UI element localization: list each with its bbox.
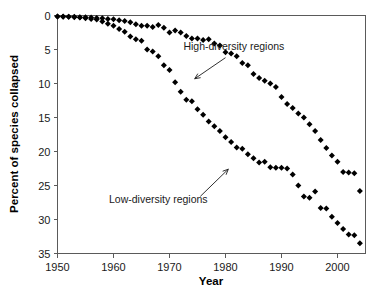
data-point [55, 14, 61, 20]
data-point [234, 144, 240, 150]
data-point [335, 220, 341, 226]
data-point [284, 166, 290, 172]
data-point [251, 71, 257, 77]
data-point [178, 89, 184, 95]
data-point [346, 170, 352, 176]
data-point [290, 105, 296, 111]
data-point [251, 155, 257, 161]
annotation-label: High-diversity regions [183, 40, 284, 52]
data-point [150, 24, 156, 30]
data-point [340, 169, 346, 175]
x-tick-label: 1980 [213, 261, 237, 273]
data-point [66, 14, 72, 20]
data-point [318, 205, 324, 211]
chart-annotations: High-diversity regionsLow-diversity regi… [109, 40, 284, 206]
figure-container: 05101520253035 195019601970198019902000 … [0, 0, 384, 301]
data-point [301, 115, 307, 121]
data-point [172, 79, 178, 85]
data-point [99, 19, 105, 25]
data-point [256, 159, 262, 165]
data-point [340, 226, 346, 232]
y-axis-ticks: 05101520253035 [38, 10, 57, 260]
data-point [83, 15, 89, 21]
data-point [122, 18, 128, 24]
data-point [105, 21, 111, 27]
data-point [267, 164, 273, 170]
data-point [127, 34, 133, 40]
data-point [273, 165, 279, 171]
data-point [307, 195, 313, 201]
data-point [239, 146, 245, 152]
data-point [183, 97, 189, 103]
x-axis-ticks: 195019601970198019902000 [45, 254, 349, 273]
data-point [178, 30, 184, 36]
data-point [139, 23, 145, 29]
data-point [127, 19, 133, 25]
data-point [273, 84, 279, 90]
annotation-arrow [195, 58, 226, 79]
y-tick-label: 20 [38, 146, 50, 158]
data-point [150, 49, 156, 55]
data-point [133, 21, 139, 27]
data-point [116, 17, 122, 23]
data-point [172, 27, 178, 33]
x-tick-label: 1960 [101, 261, 125, 273]
data-point [200, 112, 206, 118]
data-point [323, 145, 329, 151]
data-point [60, 14, 66, 20]
data-point [245, 62, 251, 68]
data-point [312, 128, 318, 134]
data-point [223, 134, 229, 140]
data-point [228, 139, 234, 145]
data-point [189, 98, 195, 104]
data-point [329, 214, 335, 220]
data-point [234, 53, 240, 59]
annotation-label: Low-diversity regions [109, 193, 208, 205]
data-point [323, 206, 329, 212]
data-point [346, 231, 352, 237]
x-tick-label: 1970 [157, 261, 181, 273]
data-point [122, 29, 128, 35]
data-point [161, 25, 167, 31]
data-point [295, 110, 301, 116]
y-tick-label: 35 [38, 248, 50, 260]
data-point [357, 188, 363, 194]
y-tick-label: 15 [38, 112, 50, 124]
data-point [351, 170, 357, 176]
data-point [217, 128, 223, 134]
data-point [318, 137, 324, 143]
y-tick-label: 0 [44, 10, 50, 22]
data-point [279, 165, 285, 171]
data-point [279, 94, 285, 100]
x-tick-label: 2000 [325, 261, 349, 273]
data-point [307, 121, 313, 127]
data-point [239, 60, 245, 66]
data-point [262, 159, 268, 165]
data-point [144, 47, 150, 53]
data-point [357, 240, 363, 246]
data-point [116, 26, 122, 32]
scatter-chart: 05101520253035 195019601970198019902000 … [0, 0, 384, 301]
data-point [195, 106, 201, 112]
data-point [144, 23, 150, 29]
y-tick-label: 10 [38, 78, 50, 90]
data-point [245, 151, 251, 157]
data-point [295, 183, 301, 189]
data-point [329, 153, 335, 159]
data-point [155, 22, 161, 28]
x-tick-label: 1950 [45, 261, 69, 273]
data-point [256, 75, 262, 81]
data-point [351, 232, 357, 238]
data-point [284, 101, 290, 107]
data-point [111, 16, 117, 22]
data-point [267, 81, 273, 87]
data-point [206, 119, 212, 125]
y-tick-label: 25 [38, 180, 50, 192]
x-tick-label: 1990 [269, 261, 293, 273]
data-point [290, 172, 296, 178]
data-point [155, 53, 161, 59]
data-point [211, 123, 217, 129]
data-point [133, 36, 139, 42]
data-point [167, 67, 173, 73]
y-tick-label: 5 [44, 44, 50, 56]
